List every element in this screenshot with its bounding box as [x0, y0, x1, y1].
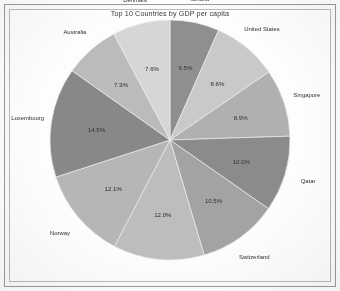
slice-percent-label: 7.6% — [145, 64, 159, 71]
slice-category-label: Qatar — [301, 178, 316, 184]
slice-percent-label: 10.5% — [205, 197, 222, 204]
slice-category-label: Denmark — [123, 0, 147, 3]
slice-percent-label: 6.5% — [178, 64, 192, 71]
slice-percent-label: 8.9% — [234, 113, 248, 120]
chart-title: Top 10 Countries by GDP per capita — [0, 9, 340, 18]
slice-percent-label: 12.0% — [154, 211, 171, 218]
pie-area: 6.5%8.6%8.9%10.0%10.5%12.0%12.1%14.5%7.3… — [48, 18, 292, 262]
slice-category-label: Luxembourg — [11, 115, 44, 121]
pie-chart-figure: Top 10 Countries by GDP per capita 6.5%8… — [0, 0, 340, 291]
slice-percent-label: 7.3% — [114, 81, 128, 88]
slice-category-label: Singapore — [293, 92, 320, 98]
slice-percent-label: 8.6% — [211, 79, 225, 86]
slice-category-label: Switzerland — [239, 254, 269, 260]
slice-percent-label: 12.1% — [105, 185, 122, 192]
slice-percent-label: 10.0% — [233, 158, 250, 165]
slice-percent-label: 14.5% — [88, 125, 105, 132]
slice-category-label: Norway — [50, 230, 70, 236]
slice-category-label: Iceland — [190, 0, 209, 2]
slice-category-label: United States — [244, 26, 279, 32]
pie-slices — [50, 20, 290, 260]
pie-svg — [48, 18, 292, 262]
slice-category-label: Australia — [63, 29, 86, 35]
